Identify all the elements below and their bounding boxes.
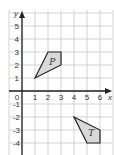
x-tick-label: 1 bbox=[33, 93, 38, 102]
y-tick-label: -4 bbox=[13, 139, 21, 148]
x-tick-label: 5 bbox=[85, 93, 90, 102]
x-tick-label: 3 bbox=[59, 93, 64, 102]
shapes: PT bbox=[35, 52, 100, 143]
x-tick-label: 6 bbox=[98, 93, 103, 102]
y-tick-label: 2 bbox=[15, 61, 20, 70]
y-tick-label: 1 bbox=[15, 74, 20, 83]
y-tick-label: -3 bbox=[13, 126, 21, 135]
shape-label-p: P bbox=[48, 57, 56, 67]
coordinate-grid: PT 123456012345-1-2-3-4yx bbox=[0, 0, 114, 155]
y-tick-label: -1 bbox=[13, 100, 21, 109]
x-tick-label: 4 bbox=[72, 93, 77, 102]
y-axis-label: y bbox=[13, 9, 19, 18]
y-tick-label: -2 bbox=[13, 113, 21, 122]
y-tick-label: 3 bbox=[15, 48, 20, 57]
tick-labels: 123456012345-1-2-3-4yx bbox=[13, 9, 113, 148]
x-tick-label: 2 bbox=[46, 93, 51, 102]
y-tick-label: 5 bbox=[15, 22, 20, 31]
x-axis-label: x bbox=[107, 93, 113, 102]
y-axis-arrow-icon bbox=[19, 11, 25, 18]
y-tick-label: 4 bbox=[15, 35, 20, 44]
shape-label-t: T bbox=[88, 128, 95, 138]
